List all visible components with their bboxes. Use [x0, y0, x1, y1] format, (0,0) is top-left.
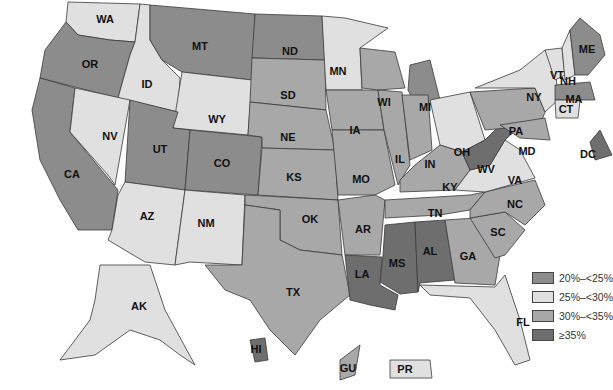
legend-swatch: [532, 310, 554, 322]
legend-swatch: [532, 272, 554, 284]
state-NM[interactable]: [175, 190, 245, 265]
legend-swatch: [532, 291, 554, 303]
state-HI[interactable]: [250, 338, 268, 362]
legend-item-35-plus: ≥35%: [532, 327, 613, 343]
state-PR[interactable]: [390, 360, 432, 378]
state-DC[interactable]: [590, 130, 612, 160]
legend-item-25-30: 25%–<30%: [532, 289, 613, 305]
legend: 20%–<25% 25%–<30% 30%–<35% ≥35%: [532, 270, 613, 346]
legend-label: 30%–<35%: [559, 310, 613, 322]
state-AK[interactable]: [60, 265, 195, 365]
state-WY[interactable]: [173, 72, 252, 135]
state-ND[interactable]: [252, 14, 325, 60]
state-IA[interactable]: [326, 90, 384, 130]
state-AZ[interactable]: [108, 182, 185, 265]
state-KS[interactable]: [258, 148, 338, 200]
state-ME[interactable]: [570, 18, 605, 75]
us-choropleth-map: WA OR CA ID NV MT WY UT CO AZ NM ND SD N…: [0, 0, 613, 390]
state-WI[interactable]: [360, 48, 405, 90]
state-SD[interactable]: [250, 58, 326, 110]
state-AR[interactable]: [338, 195, 385, 255]
legend-label: 20%–<25%: [559, 272, 613, 284]
state-CT[interactable]: [555, 100, 580, 118]
state-FL[interactable]: [420, 275, 530, 365]
legend-item-20-25: 20%–<25%: [532, 270, 613, 286]
legend-label: ≥35%: [559, 329, 586, 341]
state-MA[interactable]: [555, 82, 595, 100]
legend-label: 25%–<30%: [559, 291, 613, 303]
state-GU[interactable]: [340, 345, 360, 380]
state-MS[interactable]: [380, 222, 418, 294]
state-CO[interactable]: [185, 130, 262, 195]
legend-swatch: [532, 329, 554, 341]
state-MO[interactable]: [332, 130, 395, 195]
legend-item-30-35: 30%–<35%: [532, 308, 613, 324]
